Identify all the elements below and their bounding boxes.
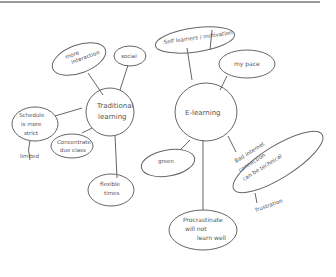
elearning-label: E-learning xyxy=(185,109,221,117)
node-e-learning: E-learning xyxy=(175,83,237,141)
procrastinate-label-3: learn well xyxy=(197,234,226,241)
flexible-label-2: times xyxy=(104,190,119,196)
edge-internet-frustration xyxy=(255,193,257,203)
green-label: green xyxy=(158,158,174,165)
edge-traditional-schedule xyxy=(55,108,82,116)
mind-map-canvas: Traditional learning more interaction so… xyxy=(0,0,336,277)
schedule-label-2: is more xyxy=(21,121,42,127)
schedule-label-3: strict xyxy=(24,130,39,136)
node-self-learners: Self learners / motivation xyxy=(154,23,237,58)
node-frustration: frustration xyxy=(254,197,284,213)
node-traditional-learning: Traditional learning xyxy=(86,88,134,136)
node-social: social xyxy=(114,46,146,66)
traditional-label-1: Traditional xyxy=(96,102,134,110)
edge-traditional-social xyxy=(120,65,128,90)
concentrate-label-2: due class xyxy=(60,147,86,153)
node-bad-internet: Bad internet connection can be technical xyxy=(225,121,330,203)
node-my-pace: my pace xyxy=(219,50,275,78)
node-concentrate: Concentrate due class xyxy=(51,134,93,158)
node-limited: limited xyxy=(20,153,39,159)
traditional-label-2: learning xyxy=(98,113,127,121)
node-schedule-strict: Schedule is more strict xyxy=(12,107,58,141)
edge-elearning-internet xyxy=(228,136,236,152)
procrastinate-label-2: will not xyxy=(185,225,207,232)
concentrate-label-1: Concentrate xyxy=(57,139,92,145)
edge-traditional-flexible xyxy=(115,135,117,178)
schedule-label-1: Schedule xyxy=(19,112,45,118)
self-learners-label: Self learners / motivation xyxy=(163,29,233,45)
node-flexible-times: flexible times xyxy=(88,174,134,206)
node-more-interaction: more interaction xyxy=(48,36,110,81)
procrastinate-label-1: Procrastinate xyxy=(183,216,223,223)
edge-traditional-interaction xyxy=(88,73,103,95)
node-procrastinate: Procrastinate will not learn well xyxy=(169,210,237,250)
edge-traditional-concentrate xyxy=(82,128,92,133)
flexible-label-1: flexible xyxy=(100,181,121,187)
my-pace-label: my pace xyxy=(234,60,260,68)
edges xyxy=(29,48,258,210)
social-label: social xyxy=(121,53,137,59)
node-green: green xyxy=(139,146,197,181)
edge-elearning-green xyxy=(180,140,190,150)
